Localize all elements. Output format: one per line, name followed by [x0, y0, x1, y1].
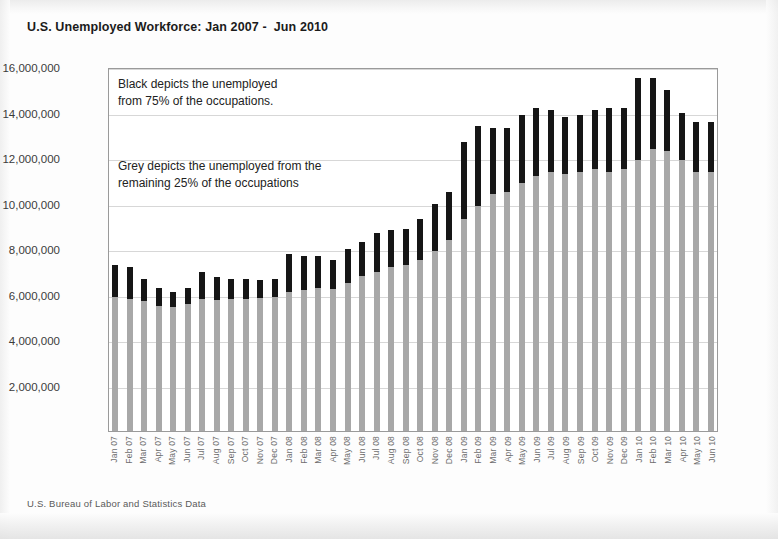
bar-segment-grey — [330, 289, 336, 431]
x-axis-tick-label: Dec 07 — [271, 436, 277, 492]
x-axis-tick-label: Jan 07 — [111, 436, 117, 492]
bar[interactable] — [475, 126, 481, 431]
bar[interactable] — [112, 265, 118, 431]
bar[interactable] — [403, 229, 409, 431]
bar-segment-black — [112, 265, 118, 297]
bar-segment-grey — [286, 292, 292, 431]
bar-segment-black — [621, 108, 627, 169]
bar[interactable] — [359, 242, 365, 431]
x-axis-tick-label: May 08 — [344, 436, 350, 492]
bar-segment-black — [475, 126, 481, 206]
x-axis-tick-label: May 09 — [519, 436, 525, 492]
bar[interactable] — [562, 117, 568, 431]
x-axis-tick-label: Feb 07 — [126, 436, 132, 492]
bar-segment-grey — [214, 300, 220, 431]
bar[interactable] — [592, 110, 598, 431]
bar-segment-grey — [504, 192, 510, 431]
bar[interactable] — [693, 122, 699, 431]
bar[interactable] — [533, 108, 539, 431]
bar[interactable] — [301, 256, 307, 431]
chart-title: U.S. Unemployed Workforce: Jan 2007 - Ju… — [27, 20, 328, 34]
x-axis-tick-label: May 07 — [169, 436, 175, 492]
bar[interactable] — [664, 90, 670, 431]
y-axis-tick-label: 6,000,000 — [0, 290, 60, 302]
bar-segment-black — [562, 117, 568, 174]
bar-segment-grey — [199, 299, 205, 431]
bar-segment-grey — [315, 288, 321, 431]
bar[interactable] — [708, 122, 714, 431]
bar-segment-black — [533, 108, 539, 176]
x-axis-tick-label: Oct 07 — [242, 436, 248, 492]
bar[interactable] — [330, 260, 336, 431]
bar-segment-black — [243, 279, 249, 299]
bar[interactable] — [679, 113, 685, 431]
bar-segment-grey — [301, 290, 307, 431]
bar-segment-black — [141, 279, 147, 302]
bar[interactable] — [272, 279, 278, 431]
bar[interactable] — [243, 279, 249, 431]
bar-segment-black — [345, 249, 351, 283]
bar[interactable] — [490, 128, 496, 431]
bar[interactable] — [156, 288, 162, 431]
bar-segment-grey — [490, 194, 496, 431]
bar[interactable] — [228, 279, 234, 431]
x-axis-tick-label: Nov 09 — [607, 436, 613, 492]
bar[interactable] — [519, 115, 525, 431]
bar-segment-black — [272, 279, 278, 297]
source-note: U.S. Bureau of Labor and Statistics Data — [27, 498, 206, 509]
x-axis-tick-label: Sep 07 — [228, 436, 234, 492]
bar[interactable] — [504, 128, 510, 431]
bar[interactable] — [650, 78, 656, 431]
bar[interactable] — [548, 110, 554, 431]
bar[interactable] — [345, 249, 351, 431]
bar-segment-grey — [345, 283, 351, 431]
x-axis-tick-label: Jan 09 — [461, 436, 467, 492]
bar[interactable] — [577, 115, 583, 431]
bar[interactable] — [432, 204, 438, 431]
bar[interactable] — [621, 108, 627, 431]
bar-segment-grey — [679, 160, 685, 431]
bar[interactable] — [141, 279, 147, 431]
annotation-black-series: Black depicts the unemployed from 75% of… — [118, 76, 277, 110]
bar[interactable] — [199, 272, 205, 431]
bar[interactable] — [417, 219, 423, 431]
x-axis-tick-label: Jul 08 — [373, 436, 379, 492]
bar[interactable] — [315, 256, 321, 431]
paper-edge-top — [0, 0, 778, 14]
bar-segment-grey — [548, 172, 554, 431]
bar-segment-grey — [228, 299, 234, 431]
bar-segment-black — [490, 128, 496, 194]
y-axis-tick-label: 10,000,000 — [0, 199, 60, 211]
bar-segment-grey — [533, 176, 539, 431]
bar[interactable] — [461, 142, 467, 431]
bar-segment-black — [650, 78, 656, 149]
bar-segment-black — [577, 115, 583, 172]
bar[interactable] — [286, 254, 292, 431]
bar[interactable] — [127, 267, 133, 431]
bar[interactable] — [635, 78, 641, 431]
x-axis-tick-label: Jun 08 — [359, 436, 365, 492]
bar[interactable] — [446, 192, 452, 431]
bar[interactable] — [214, 277, 220, 431]
bar[interactable] — [388, 230, 394, 431]
y-axis-tick-label: 8,000,000 — [0, 244, 60, 256]
bar[interactable] — [606, 108, 612, 431]
x-axis-tick-label: May 10 — [694, 436, 700, 492]
bar[interactable] — [170, 292, 176, 431]
x-axis-tick-label: Jan 08 — [286, 436, 292, 492]
bar[interactable] — [257, 280, 263, 431]
x-axis-tick-label: Aug 09 — [563, 436, 569, 492]
x-axis-tick-label: Mar 07 — [140, 436, 146, 492]
bar-segment-grey — [577, 172, 583, 431]
bar-segment-grey — [243, 299, 249, 431]
bar-segment-grey — [621, 169, 627, 431]
bar-segment-black — [664, 90, 670, 151]
bar-segment-black — [286, 254, 292, 293]
x-axis-tick-label: Nov 07 — [257, 436, 263, 492]
y-axis-tick-label: 4,000,000 — [0, 335, 60, 347]
bar[interactable] — [374, 233, 380, 431]
x-axis-tick-label: Dec 09 — [621, 436, 627, 492]
bar-segment-grey — [562, 174, 568, 431]
bar[interactable] — [185, 288, 191, 431]
bar-segment-grey — [403, 265, 409, 431]
